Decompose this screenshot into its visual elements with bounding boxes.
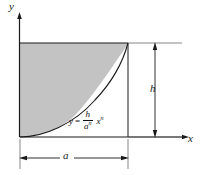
x-axis-label: x [188,133,193,144]
figure-canvas: y x h a y = h an xn [0,0,201,175]
y-axis-arrowhead [17,12,22,19]
height-dimension-label: h [150,83,156,94]
y-axis-label: y [9,1,14,12]
equation-variable-exponent: n [101,115,104,121]
figure-svg [0,0,201,175]
equation-denominator-exponent: n [89,120,92,126]
equation-numerator: h [85,110,92,119]
equation-variable-term: xn [97,116,104,126]
width-dimension-label: a [63,150,69,161]
equation-fraction: h an [83,110,93,131]
equation-denominator: an [83,122,93,131]
equation-equals-sign: = [75,116,80,126]
equation-lhs: y [69,116,73,126]
curve-equation-annotation: y = h an xn [69,110,104,131]
